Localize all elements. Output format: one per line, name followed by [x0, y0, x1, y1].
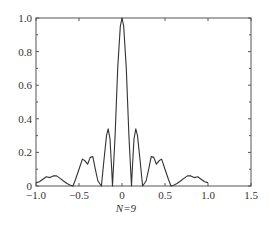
y-tick-label: 0.6 — [18, 79, 32, 91]
y-tick-label: 0.8 — [18, 46, 32, 58]
line-chart: 00.20.40.60.81.0 −1.0−0.500.51.01.5 N=9 — [0, 0, 269, 226]
x-tick-label: −1.0 — [26, 189, 46, 201]
plot-frame — [36, 18, 251, 186]
x-axis-title: N=9 — [115, 202, 137, 214]
y-tick-label: 0.4 — [18, 113, 32, 125]
y-tick-label: 1.0 — [18, 12, 32, 24]
x-tick-label: 0 — [119, 189, 125, 201]
x-tick-label: 0.5 — [158, 189, 172, 201]
x-tick-label: 1.0 — [201, 189, 215, 201]
data-series-line — [36, 18, 208, 186]
x-axis: −1.0−0.500.51.01.5 — [26, 18, 258, 201]
y-tick-label: 0.2 — [18, 146, 32, 158]
plot-border — [36, 18, 251, 186]
x-tick-label: 1.5 — [244, 189, 258, 201]
y-axis: 00.20.40.60.81.0 — [18, 12, 251, 192]
x-tick-label: −0.5 — [69, 189, 89, 201]
